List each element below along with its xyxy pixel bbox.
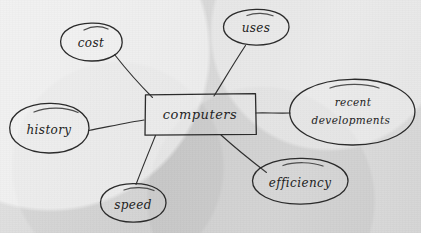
node-recent-developments[interactable]: recent developments — [290, 79, 415, 145]
concept-map-svg: computers cost uses recent developments … — [0, 0, 421, 233]
edge-computers-speed — [136, 136, 156, 185]
node-uses[interactable]: uses — [223, 9, 289, 45]
edge-computers-history — [89, 120, 145, 131]
node-speed[interactable]: speed — [100, 184, 166, 223]
edge-computers-uses — [214, 46, 246, 97]
concept-map-canvas: computers cost uses recent developments … — [0, 0, 421, 233]
node-cost-label: cost — [78, 36, 105, 50]
node-uses-label: uses — [242, 21, 271, 35]
center-node-label: computers — [163, 107, 237, 122]
center-node-computers[interactable]: computers — [145, 94, 256, 136]
node-recent-developments-label-line1: recent — [335, 96, 372, 108]
edge-computers-cost — [115, 55, 153, 98]
edge-computers-efficiency — [221, 135, 267, 173]
node-recent-developments-label-line2: developments — [312, 114, 391, 126]
node-cost[interactable]: cost — [61, 23, 123, 61]
node-speed-label: speed — [114, 198, 152, 212]
node-history-label: history — [26, 123, 71, 137]
node-efficiency[interactable]: efficiency — [252, 158, 348, 204]
node-history[interactable]: history — [10, 103, 89, 153]
node-efficiency-label: efficiency — [269, 176, 332, 190]
node-recent-developments-ellipse — [290, 79, 415, 145]
